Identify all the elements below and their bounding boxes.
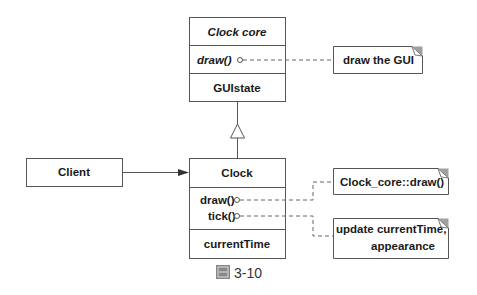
class-clock: Clock draw() tick() currentTime — [190, 159, 286, 259]
note-update-line-2: appearance — [371, 240, 435, 252]
hollow-triangle-icon — [231, 124, 245, 138]
note-clock-core-draw-text: Clock_core::draw() — [340, 176, 444, 188]
note-update-line-1: update currentTime, — [336, 223, 446, 235]
class-clock-name: Clock — [221, 167, 253, 179]
uml-diagram: Clock core draw() GUIstate draw the GUI … — [0, 0, 477, 295]
class-clock-attr-currenttime: currentTime — [204, 238, 270, 250]
figure-caption-text: 3-10 — [234, 265, 262, 281]
class-clock-op-draw: draw() — [200, 194, 235, 206]
port-circle-icon — [238, 58, 243, 63]
note-draw-gui: draw the GUI — [334, 47, 423, 74]
note-draw-gui-text: draw the GUI — [343, 54, 414, 66]
class-clock-core-attr-guistate: GUIstate — [213, 82, 260, 94]
note-clock-core-draw: Clock_core::draw() — [334, 169, 449, 195]
filled-arrowhead-icon — [178, 169, 189, 176]
note-update: update currentTime, appearance — [334, 219, 449, 259]
class-clock-op-tick: tick() — [208, 210, 236, 222]
class-client-name: Client — [58, 166, 90, 178]
port-circle-icon — [235, 214, 240, 219]
class-client: Client — [27, 159, 123, 187]
port-circle-icon — [235, 198, 240, 203]
class-clock-core-op-draw: draw() — [197, 54, 232, 66]
generalization-arrow — [231, 102, 245, 159]
figure-caption: 3-10 — [216, 265, 262, 281]
class-clock-core-name: Clock core — [208, 26, 267, 38]
association-arrow — [123, 169, 190, 176]
